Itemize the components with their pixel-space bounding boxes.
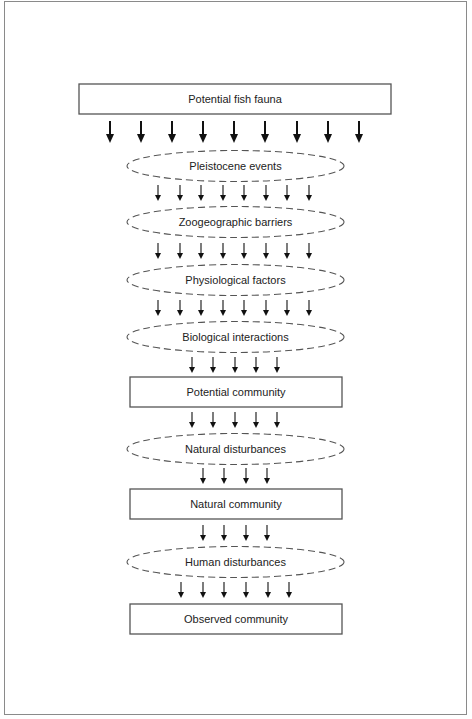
down-arrow-icon bbox=[155, 300, 161, 316]
node-label-zoogeographic-barriers: Zoogeographic barriers bbox=[179, 216, 293, 228]
down-arrow-icon bbox=[106, 121, 114, 143]
down-arrow-icon bbox=[306, 185, 312, 201]
node-label-natural-disturbances: Natural disturbances bbox=[185, 443, 286, 455]
down-arrow-icon bbox=[306, 243, 312, 259]
down-arrow-icon bbox=[168, 121, 176, 143]
down-arrow-icon bbox=[265, 582, 271, 598]
down-arrow-icon bbox=[177, 185, 183, 201]
down-arrow-icon bbox=[263, 243, 269, 259]
down-arrow-icon bbox=[284, 243, 290, 259]
down-arrow-icon bbox=[177, 300, 183, 316]
down-arrow-icon bbox=[263, 185, 269, 201]
down-arrow-icon bbox=[210, 357, 216, 373]
down-arrow-icon bbox=[189, 412, 195, 428]
down-arrow-icon bbox=[274, 412, 280, 428]
down-arrow-icon bbox=[232, 357, 238, 373]
down-arrow-icon bbox=[199, 121, 207, 143]
node-label-potential-fish-fauna: Potential fish fauna bbox=[188, 93, 282, 105]
down-arrow-icon bbox=[263, 300, 269, 316]
down-arrow-icon bbox=[261, 121, 269, 143]
down-arrow-icon bbox=[221, 468, 227, 484]
node-label-physiological-factors: Physiological factors bbox=[185, 274, 285, 286]
node-label-potential-community: Potential community bbox=[186, 386, 285, 398]
down-arrow-icon bbox=[221, 525, 227, 541]
node-label-observed-community: Observed community bbox=[184, 613, 288, 625]
down-arrow-icon bbox=[177, 243, 183, 259]
down-arrow-icon bbox=[264, 525, 270, 541]
down-arrow-icon bbox=[210, 412, 216, 428]
down-arrow-icon bbox=[241, 243, 247, 259]
down-arrow-icon bbox=[241, 185, 247, 201]
node-label-human-disturbances: Human disturbances bbox=[185, 556, 286, 568]
down-arrow-icon bbox=[286, 582, 292, 598]
node-label-biological-interactions: Biological interactions bbox=[182, 331, 288, 343]
down-arrow-icon bbox=[243, 582, 249, 598]
down-arrow-icon bbox=[198, 300, 204, 316]
down-arrow-icon bbox=[293, 121, 301, 143]
down-arrow-icon bbox=[243, 525, 249, 541]
down-arrow-icon bbox=[274, 357, 280, 373]
down-arrow-icon bbox=[200, 468, 206, 484]
down-arrow-icon bbox=[200, 582, 206, 598]
down-arrow-icon bbox=[198, 185, 204, 201]
down-arrow-icon bbox=[220, 243, 226, 259]
down-arrow-icon bbox=[284, 300, 290, 316]
down-arrow-icon bbox=[355, 121, 363, 143]
down-arrow-icon bbox=[189, 357, 195, 373]
down-arrow-icon bbox=[324, 121, 332, 143]
down-arrow-icon bbox=[284, 185, 290, 201]
down-arrow-icon bbox=[220, 185, 226, 201]
down-arrow-icon bbox=[221, 582, 227, 598]
down-arrow-icon bbox=[200, 525, 206, 541]
down-arrow-icon bbox=[243, 468, 249, 484]
down-arrow-icon bbox=[155, 243, 161, 259]
arrows-layer bbox=[106, 121, 363, 598]
down-arrow-icon bbox=[155, 185, 161, 201]
down-arrow-icon bbox=[264, 468, 270, 484]
node-label-pleistocene-events: Pleistocene events bbox=[189, 160, 281, 172]
down-arrow-icon bbox=[178, 582, 184, 598]
down-arrow-icon bbox=[198, 243, 204, 259]
down-arrow-icon bbox=[220, 300, 226, 316]
node-label-natural-community: Natural community bbox=[190, 498, 282, 510]
down-arrow-icon bbox=[253, 412, 259, 428]
down-arrow-icon bbox=[306, 300, 312, 316]
down-arrow-icon bbox=[241, 300, 247, 316]
down-arrow-icon bbox=[253, 357, 259, 373]
filter-diagram bbox=[0, 0, 472, 719]
down-arrow-icon bbox=[232, 412, 238, 428]
down-arrow-icon bbox=[230, 121, 238, 143]
down-arrow-icon bbox=[137, 121, 145, 143]
